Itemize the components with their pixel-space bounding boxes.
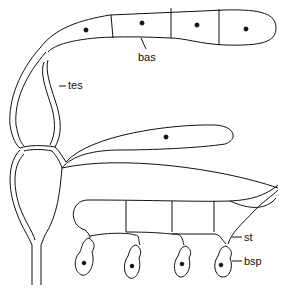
middle-cell (62, 125, 233, 168)
upper-basidium (40, 8, 276, 52)
tes-stalk (10, 48, 66, 285)
label-st: st (244, 232, 253, 243)
label-bsp: bsp (244, 256, 262, 267)
label-tes: tes (68, 80, 83, 91)
diagram-canvas (0, 0, 285, 292)
label-bas: bas (138, 52, 156, 63)
